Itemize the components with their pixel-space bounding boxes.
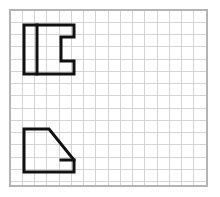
figure-svg <box>0 0 220 197</box>
figure-canvas <box>0 0 220 197</box>
grid-panel-background <box>10 10 207 186</box>
grid-group <box>10 10 207 186</box>
